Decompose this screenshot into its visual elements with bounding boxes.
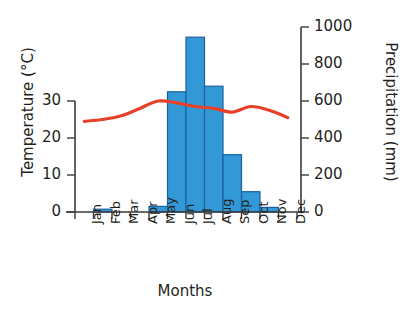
- bar-aug: [205, 86, 224, 212]
- month-label-aug: Aug: [220, 199, 233, 224]
- left-tick-label-0: 0: [19, 204, 61, 219]
- month-label-feb: Feb: [109, 201, 122, 224]
- right-tick-label-1000: 1000: [314, 19, 364, 34]
- right-tick-label-800: 800: [314, 56, 364, 71]
- left-tick-label-20: 20: [19, 130, 61, 145]
- month-label-apr: Apr: [146, 202, 159, 225]
- month-label-dec: Dec: [294, 199, 307, 224]
- left-axis-ticks: [67, 101, 75, 212]
- month-label-sep: Sep: [238, 199, 251, 224]
- climate-chart: Temperature (°C) Precipitation (mm) Mont…: [0, 0, 411, 314]
- right-tick-label-200: 200: [314, 167, 364, 182]
- bar-jul: [186, 37, 205, 212]
- left-tick-label-30: 30: [19, 93, 61, 108]
- left-tick-label-10: 10: [19, 167, 61, 182]
- right-tick-label-400: 400: [314, 130, 364, 145]
- month-label-may: May: [164, 197, 177, 224]
- bar-jun: [168, 92, 187, 212]
- month-label-mar: Mar: [127, 199, 140, 224]
- plot-area: [0, 0, 411, 314]
- right-axis-ticks: [301, 27, 309, 212]
- month-label-jan: Jan: [90, 204, 103, 224]
- right-tick-label-600: 600: [314, 93, 364, 108]
- right-tick-label-0: 0: [314, 204, 364, 219]
- month-label-jun: Jun: [183, 204, 196, 224]
- precipitation-bars: [94, 37, 279, 212]
- month-label-oct: Oct: [257, 202, 270, 224]
- month-label-nov: Nov: [275, 199, 288, 224]
- plot-svg: [0, 0, 411, 314]
- month-label-jul: Jul: [201, 208, 214, 224]
